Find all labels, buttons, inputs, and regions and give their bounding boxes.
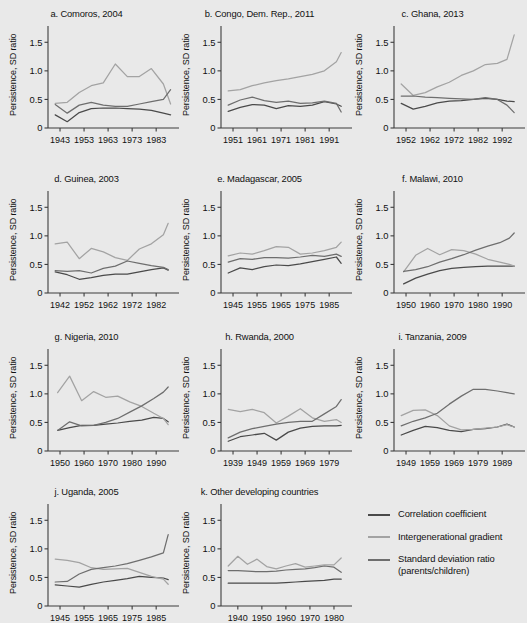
svg-text:1.0: 1.0	[29, 65, 42, 76]
panel-title: h. Rwanda, 2000	[173, 331, 346, 342]
plot-area: 00.51.01.519501960197019801990	[22, 345, 181, 477]
chart-panel-comoros: a. Comoros, 2004Persistence, SD ratio00.…	[0, 0, 173, 165]
svg-text:1952: 1952	[396, 135, 416, 145]
y-axis-label: Persistence, SD ratio	[6, 500, 20, 606]
series-line-1	[228, 409, 341, 423]
svg-text:0: 0	[210, 287, 215, 298]
svg-text:1940: 1940	[228, 613, 248, 623]
svg-text:1955: 1955	[247, 300, 267, 310]
svg-text:1950: 1950	[396, 300, 416, 310]
panel-title: i. Tanzania, 2009	[346, 331, 519, 342]
svg-text:1950: 1950	[50, 458, 70, 468]
svg-text:1949: 1949	[396, 458, 416, 468]
svg-text:1.5: 1.5	[202, 37, 215, 48]
svg-text:0.5: 0.5	[202, 94, 215, 105]
svg-text:0: 0	[383, 287, 388, 298]
svg-text:1960: 1960	[276, 613, 296, 623]
plot-area: 00.51.01.519451955196519751985	[22, 500, 181, 623]
plot-area: 00.51.01.519431953196319731983	[22, 22, 181, 154]
svg-text:1982: 1982	[468, 135, 488, 145]
chart-panel-guinea: d. Guinea, 2003Persistence, SD ratio00.5…	[0, 165, 173, 323]
svg-text:0: 0	[210, 600, 215, 611]
svg-text:0: 0	[37, 445, 42, 456]
plot-area: 00.51.01.519521962197219821992	[368, 22, 527, 154]
series-line-1	[401, 35, 514, 96]
y-axis-label: Persistence, SD ratio	[179, 187, 193, 293]
svg-text:1970: 1970	[444, 300, 464, 310]
series-line-2	[55, 535, 168, 582]
series-line-2	[55, 261, 168, 273]
svg-text:1985: 1985	[146, 613, 166, 623]
svg-text:1982: 1982	[146, 300, 166, 310]
plot-area: 00.51.01.519401950196019701980	[195, 500, 354, 623]
series-line-1	[55, 223, 168, 260]
panel-title: e. Madagascar, 2005	[173, 173, 346, 184]
svg-text:1972: 1972	[444, 135, 464, 145]
legend-item-1[interactable]: Intergenerational gradient	[368, 531, 519, 543]
svg-text:1980: 1980	[468, 300, 488, 310]
plot-area: 00.51.01.519451955196519751985	[195, 187, 354, 319]
svg-text:1945: 1945	[50, 613, 70, 623]
svg-text:0.5: 0.5	[29, 94, 42, 105]
svg-text:0.5: 0.5	[202, 572, 215, 583]
svg-text:1.0: 1.0	[202, 388, 215, 399]
svg-text:1980: 1980	[324, 613, 344, 623]
svg-text:0.5: 0.5	[375, 259, 388, 270]
svg-text:1992: 1992	[492, 135, 512, 145]
y-axis-label: Persistence, SD ratio	[352, 22, 366, 128]
svg-text:1980: 1980	[122, 458, 142, 468]
svg-text:1965: 1965	[98, 613, 118, 623]
svg-text:1959: 1959	[420, 458, 440, 468]
series-line-0	[228, 425, 341, 441]
svg-text:1959: 1959	[271, 458, 291, 468]
plot-area: 00.51.01.519421952196219721982	[22, 187, 181, 319]
chart-panel-other: k. Other developing countriesPersistence…	[173, 478, 346, 623]
svg-text:0.5: 0.5	[375, 94, 388, 105]
svg-text:1950: 1950	[252, 613, 272, 623]
series-line-2	[401, 389, 514, 426]
legend-item-2[interactable]: Standard deviation ratio(parents/childre…	[368, 553, 519, 576]
svg-text:0.5: 0.5	[29, 259, 42, 270]
svg-text:1942: 1942	[50, 300, 70, 310]
svg-text:1.5: 1.5	[29, 202, 42, 213]
series-line-0	[228, 579, 341, 583]
svg-text:1985: 1985	[319, 300, 339, 310]
svg-text:1.0: 1.0	[375, 65, 388, 76]
svg-text:0: 0	[37, 287, 42, 298]
panel-title: g. Nigeria, 2010	[0, 331, 173, 342]
svg-text:1969: 1969	[444, 458, 464, 468]
svg-text:1971: 1971	[271, 135, 291, 145]
plot-area: 00.51.01.519491959196919791989	[368, 345, 527, 477]
svg-text:0.5: 0.5	[29, 572, 42, 583]
svg-text:0: 0	[210, 122, 215, 133]
svg-text:1.0: 1.0	[202, 230, 215, 241]
chart-panel-tanzania: i. Tanzania, 2009Persistence, SD ratio00…	[346, 323, 519, 478]
svg-text:1.5: 1.5	[29, 515, 42, 526]
svg-text:1.5: 1.5	[375, 360, 388, 371]
y-axis-label: Persistence, SD ratio	[6, 187, 20, 293]
svg-text:1951: 1951	[223, 135, 243, 145]
svg-text:1952: 1952	[74, 300, 94, 310]
svg-text:1970: 1970	[300, 613, 320, 623]
svg-text:1960: 1960	[74, 458, 94, 468]
legend-item-0[interactable]: Correlation coefficient	[368, 508, 519, 520]
panel-title: a. Comoros, 2004	[0, 8, 173, 19]
series-line-0	[55, 268, 168, 279]
svg-text:1.5: 1.5	[29, 37, 42, 48]
chart-panel-malawi: f. Malawi, 2010Persistence, SD ratio00.5…	[346, 165, 519, 323]
svg-text:1949: 1949	[247, 458, 267, 468]
svg-text:1953: 1953	[74, 135, 94, 145]
svg-text:1945: 1945	[223, 300, 243, 310]
series-line-0	[401, 424, 514, 435]
svg-text:1972: 1972	[122, 300, 142, 310]
chart-panel-rwanda: h. Rwanda, 2000Persistence, SD ratio00.5…	[173, 323, 346, 478]
svg-text:1939: 1939	[223, 458, 243, 468]
svg-text:1943: 1943	[50, 135, 70, 145]
svg-text:1960: 1960	[420, 300, 440, 310]
svg-text:1963: 1963	[98, 135, 118, 145]
panel-title: b. Congo, Dem. Rep., 2011	[173, 8, 346, 19]
svg-text:1991: 1991	[319, 135, 339, 145]
y-axis-label: Persistence, SD ratio	[6, 345, 20, 451]
legend-label: Intergenerational gradient	[398, 531, 502, 543]
